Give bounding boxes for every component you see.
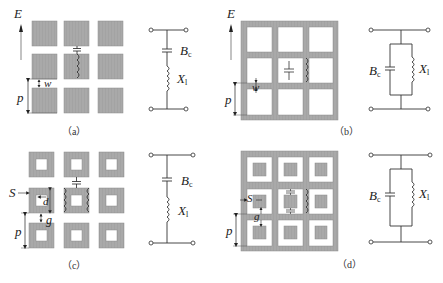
svg-text:Xl: Xl <box>418 61 430 77</box>
caption-c: （c） <box>62 260 86 271</box>
series-circuit-a: Bc Xl <box>149 28 192 111</box>
caption-b: （b） <box>334 126 359 137</box>
gap-label: g <box>46 213 52 227</box>
caption-a: （a） <box>62 126 86 137</box>
svg-text:Xl: Xl <box>418 186 430 202</box>
fss-figure: E p w <box>0 0 443 283</box>
panel-a: E p w <box>13 6 192 137</box>
capacitor-label: B <box>181 173 189 188</box>
parallel-circuit-d: Bc Xl <box>369 153 432 244</box>
panel-c: S d g p Bc Xl （c） <box>9 152 195 271</box>
size-label: d <box>43 195 49 207</box>
svg-text:Xl: Xl <box>177 203 189 219</box>
svg-text:Bc: Bc <box>369 188 381 204</box>
period-label: p <box>14 224 22 239</box>
capacitor-symbol-icon <box>73 46 81 54</box>
svg-text:Bc: Bc <box>369 63 381 79</box>
strip-width-label: S <box>9 185 16 200</box>
parallel-circuit-b: Bc Xl <box>369 28 430 111</box>
series-circuit-c: Bc Xl <box>149 153 195 245</box>
capacitor-label: B <box>180 43 188 58</box>
caption-d: （d） <box>337 259 362 270</box>
panel-d: S g p Bc Xl （d） <box>225 151 432 270</box>
period-label: p <box>225 223 233 238</box>
capacitor-label: B <box>369 63 377 78</box>
gap-label: w <box>252 81 260 93</box>
capacitor-label: B <box>369 188 377 203</box>
period-label: p <box>16 90 24 105</box>
panel-b: E p w <box>224 6 430 137</box>
e-field-label: E <box>226 6 235 21</box>
gap-label: g <box>254 210 260 222</box>
grid-with-patches <box>241 151 338 251</box>
svg-text:Xl: Xl <box>176 71 188 87</box>
metal-grid <box>241 21 338 120</box>
gap-label: w <box>44 77 52 89</box>
e-field-label: E <box>13 6 22 21</box>
capacitor-symbol-icon <box>72 177 81 188</box>
period-label: p <box>224 92 232 107</box>
svg-text:Bc: Bc <box>181 173 193 189</box>
strip-width-label: S <box>247 192 253 204</box>
svg-text:Bc: Bc <box>180 43 192 59</box>
